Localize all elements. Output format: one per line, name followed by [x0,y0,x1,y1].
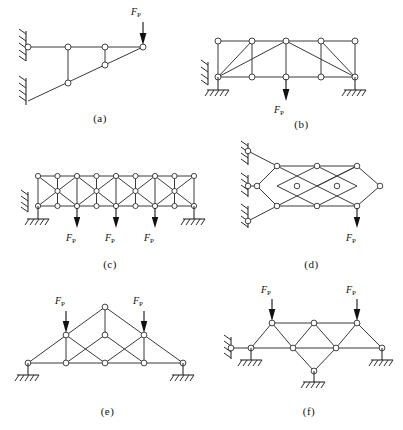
figure-d: FP (d) [220,140,403,285]
load-label-e-2: FP [132,295,143,308]
load-subscript: P [280,109,284,117]
figure-e: FP FP (e) [0,285,215,430]
truss-members-a [28,47,143,101]
load-label-c-3: FP [143,232,154,245]
load-subscript: P [150,237,154,245]
load-label-f-2: FP [345,284,356,297]
load-subscript: P [352,289,356,297]
figure-sheet: FP (a) [0,0,403,430]
load-arrow-c-3 [152,208,158,228]
load-subscript: P [61,300,65,308]
truss-joints-a [25,44,146,86]
wall-support-c [21,190,28,212]
caption-f: (f) [215,405,403,417]
wall-support-d-lower [241,204,248,228]
figure-c: FP FP FP (c) [0,140,220,285]
truss-joints-d [245,148,383,224]
load-label-e-1: FP [54,295,65,308]
load-arrow-f-1 [269,299,276,321]
load-subscript: P [137,11,141,19]
load-arrow-f-2 [354,299,361,321]
load-label-d-1: FP [345,232,356,245]
load-label-b-1: FP [273,104,284,117]
load-subscript: P [111,237,115,245]
load-arrow-c-2 [113,208,119,228]
load-arrow-d-1 [354,208,360,228]
figure-f: FP FP (f) [215,285,403,430]
load-subscript: P [139,300,143,308]
wall-support-upper-a [19,29,26,61]
load-arrow-c-1 [74,208,80,228]
caption-a: (a) [0,112,200,124]
load-subscript: P [267,289,271,297]
figure-a: FP (a) [0,0,200,140]
load-subscript: P [72,237,76,245]
load-label-f-1: FP [260,284,271,297]
load-arrow-a-1 [140,22,147,45]
caption-d: (d) [220,258,403,270]
caption-c: (c) [0,258,220,270]
figure-b: FP (b) [200,0,403,140]
truss-joints-f [228,320,385,374]
caption-e: (e) [0,405,215,417]
wall-support-lower-a [19,76,26,105]
truss-members-b [218,41,355,77]
truss-members-d [248,151,380,221]
load-arrow-e-2 [141,311,148,333]
load-label-a-1: FP [130,6,141,19]
caption-b: (b) [200,118,403,130]
truss-members-c [38,176,194,206]
load-subscript: P [352,237,356,245]
load-arrow-b-1 [283,79,290,101]
load-label-c-2: FP [104,232,115,245]
load-label-c-1: FP [65,232,76,245]
load-arrow-e-1 [63,311,70,333]
wall-support-b [201,60,208,85]
